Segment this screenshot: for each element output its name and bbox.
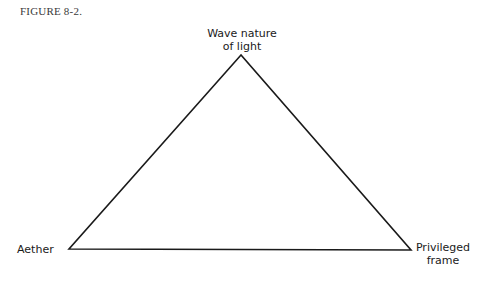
triangle-shape xyxy=(69,55,411,250)
label-line: Wave nature xyxy=(190,27,294,40)
vertex-label-wave-nature-of-light: Wave nature of light xyxy=(190,27,294,53)
label-line: of light xyxy=(190,40,294,53)
vertex-label-aether: Aether xyxy=(17,243,54,256)
label-line: frame xyxy=(412,254,474,267)
label-line: Privileged xyxy=(412,241,474,254)
vertex-label-privileged-frame: Privileged frame xyxy=(412,241,474,267)
label-line: Aether xyxy=(17,243,54,256)
